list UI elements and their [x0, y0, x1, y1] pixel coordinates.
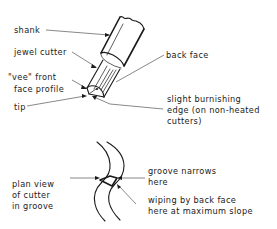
label-groove-line2: here — [148, 177, 168, 187]
label-groove-line1: groove narrows — [148, 166, 216, 176]
cutter-illustration — [87, 17, 144, 97]
label-burnishing-line3: cutters) — [167, 116, 202, 126]
label-burnishing-line2: edge (on non-heated — [167, 105, 260, 115]
label-wiping-line2: here at maximum slope — [148, 206, 253, 216]
plan-view-illustration — [94, 142, 124, 221]
cutter-diagram: shank jewel cutter "vee" front face prof… — [0, 0, 277, 229]
label-plan-line2: of cutter — [12, 190, 50, 200]
vee-front-face-shape — [87, 86, 104, 97]
label-shank: shank — [14, 25, 40, 35]
groove-arrow-left — [95, 176, 100, 180]
jewel-cutter-arrow — [91, 64, 97, 68]
label-wiping-line1: wiping by back face — [148, 195, 236, 205]
wiping-arrow — [117, 184, 121, 189]
label-plan-line1: plan view — [12, 179, 54, 189]
face-dot — [96, 88, 98, 90]
lower-leaders — [70, 176, 145, 204]
label-vee-front-line1: "vee" front — [8, 72, 57, 82]
label-back-face: back face — [166, 50, 209, 60]
label-plan-line3: in groove — [12, 201, 54, 211]
label-tip: tip — [14, 102, 26, 112]
label-vee-front-line2: face profile — [14, 84, 64, 94]
label-burnishing-line1: slight burnishing — [167, 94, 241, 104]
vee-arrow — [81, 85, 87, 89]
shank-shape — [101, 17, 144, 68]
tip-arrow — [82, 94, 87, 98]
upper-leaders — [27, 30, 164, 109]
label-jewel-cutter: jewel cutter — [13, 47, 67, 57]
